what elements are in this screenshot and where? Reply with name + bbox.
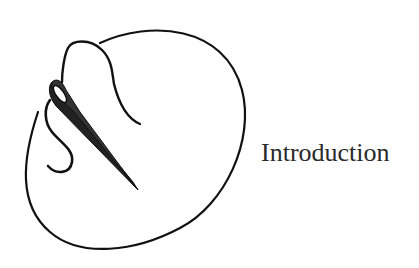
needle-and-thread-illustration xyxy=(0,0,260,268)
page-title: Introduction xyxy=(261,138,390,168)
needle-and-thread-icon xyxy=(0,0,260,268)
